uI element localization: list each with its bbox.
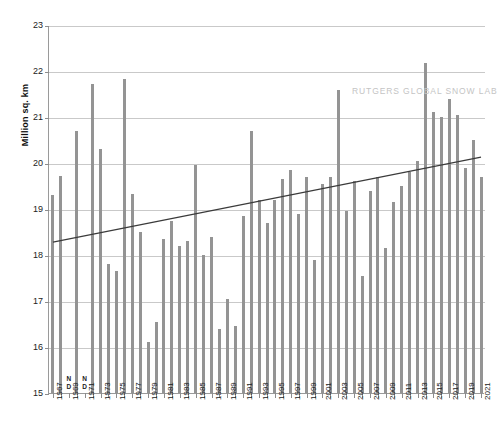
x-tick-label: 2001: [324, 382, 333, 400]
bar: [273, 200, 276, 393]
y-tick-label: 15: [23, 388, 43, 398]
x-tick-mark: [148, 393, 149, 398]
y-tick-mark: [45, 302, 49, 303]
plot-area: 232221201918171615 NDND RUTGERS GLOBAL S…: [48, 26, 484, 394]
y-tick-mark: [45, 118, 49, 119]
x-tick-label: 1979: [150, 382, 159, 400]
bar: [337, 90, 340, 393]
bar: [194, 165, 197, 393]
bar: [424, 63, 427, 393]
x-tick-mark: [307, 393, 308, 398]
bar: [376, 177, 379, 393]
x-tick-mark: [196, 393, 197, 398]
bar: [115, 271, 118, 393]
x-tick-mark: [418, 393, 419, 398]
bar: [99, 149, 102, 393]
x-tick-label: 1973: [103, 382, 112, 400]
bar: [250, 131, 253, 393]
y-tick-label: 20: [23, 158, 43, 168]
x-tick-mark: [212, 393, 213, 398]
bar: [480, 177, 483, 393]
bar: [313, 260, 316, 393]
bar: [400, 186, 403, 393]
bar: [329, 177, 332, 393]
y-tick-mark: [45, 72, 49, 73]
x-tick-label: 1989: [229, 382, 238, 400]
x-tick-label: 1993: [261, 382, 270, 400]
bar: [353, 181, 356, 393]
x-tick-mark: [291, 393, 292, 398]
bar: [440, 117, 443, 393]
x-tick-mark: [370, 393, 371, 398]
bar: [464, 168, 467, 393]
gridline: [49, 164, 485, 165]
x-tick-mark: [386, 393, 387, 398]
x-tick-label: 2019: [467, 382, 476, 400]
x-tick-mark: [101, 393, 102, 398]
y-tick-mark: [45, 256, 49, 257]
x-tick-label: 1969: [71, 382, 80, 400]
x-tick-label: 1977: [134, 382, 143, 400]
x-tick-label: 1987: [214, 382, 223, 400]
bar: [59, 176, 62, 393]
bar: [345, 211, 348, 393]
x-tick-label: 2009: [388, 382, 397, 400]
gridline: [49, 210, 485, 211]
bar: [392, 202, 395, 393]
bar: [448, 99, 451, 393]
x-tick-mark: [164, 393, 165, 398]
y-tick-mark: [45, 26, 49, 27]
bar: [408, 172, 411, 393]
y-tick-label: 21: [23, 112, 43, 122]
y-tick-label: 17: [23, 296, 43, 306]
watermark-text: RUTGERS GLOBAL SNOW LAB: [352, 86, 498, 96]
bar: [75, 131, 78, 393]
bar: [123, 79, 126, 393]
y-tick-label: 16: [23, 342, 43, 352]
bar: [384, 248, 387, 393]
bar: [369, 191, 372, 393]
bar: [321, 184, 324, 393]
y-tick-mark: [45, 394, 49, 395]
bar: [170, 221, 173, 394]
bar: [416, 161, 419, 393]
gridline: [49, 118, 485, 119]
bar: [281, 179, 284, 393]
bar: [226, 299, 229, 393]
x-tick-label: 2011: [404, 383, 413, 400]
y-tick-mark: [45, 210, 49, 211]
x-tick-label: 1967: [55, 382, 64, 400]
x-tick-label: 2005: [356, 382, 365, 400]
bar: [91, 84, 94, 393]
bar: [131, 194, 134, 393]
y-tick-label: 19: [23, 204, 43, 214]
bar: [186, 241, 189, 393]
x-tick-mark: [259, 393, 260, 398]
x-tick-mark: [402, 393, 403, 398]
x-tick-mark: [85, 393, 86, 398]
x-tick-label: 2017: [451, 382, 460, 400]
bar: [266, 223, 269, 393]
x-tick-mark: [275, 393, 276, 398]
x-tick-label: 1991: [245, 382, 254, 400]
y-tick-mark: [45, 348, 49, 349]
x-tick-label: 2007: [372, 382, 381, 400]
gridline: [49, 72, 485, 73]
bar: [456, 115, 459, 393]
x-tick-label: 1983: [182, 382, 191, 400]
bar: [361, 276, 364, 393]
bar: [432, 112, 435, 393]
x-tick-mark: [53, 393, 54, 398]
bar: [51, 195, 54, 393]
x-tick-label: 1995: [277, 382, 286, 400]
bar: [297, 214, 300, 393]
bar: [258, 200, 261, 393]
x-tick-mark: [180, 393, 181, 398]
bar: [289, 170, 292, 393]
bar: [305, 177, 308, 393]
x-tick-label: 1975: [118, 382, 127, 400]
bar: [242, 216, 245, 393]
bar: [139, 232, 142, 393]
bar: [162, 239, 165, 393]
bar: [202, 255, 205, 393]
